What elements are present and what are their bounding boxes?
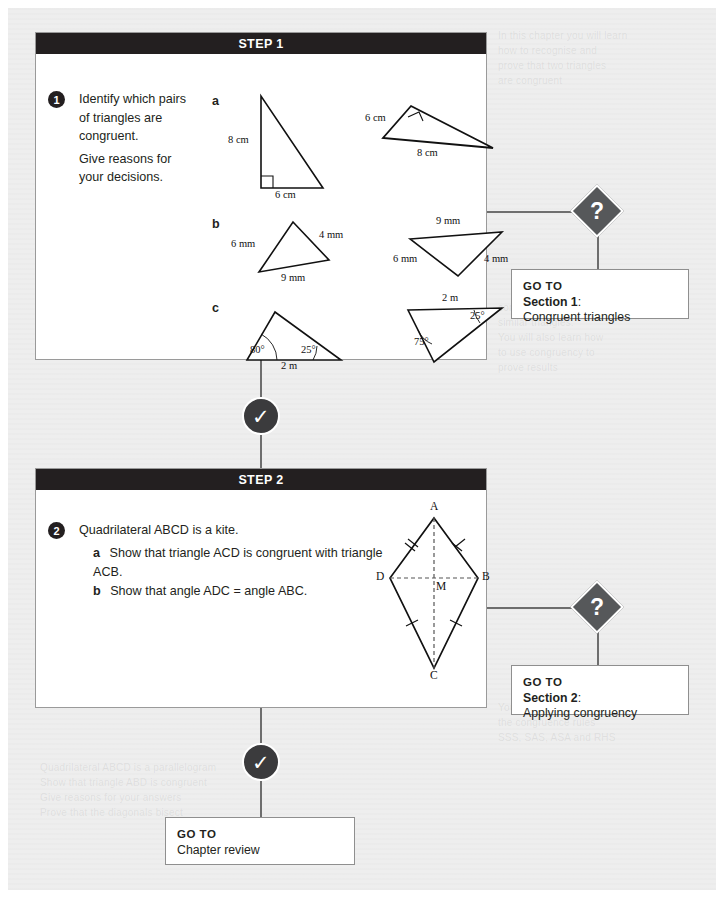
question-number-2: 2	[48, 522, 65, 539]
step-2-body: 2 Quadrilateral ABCD is a kite. a Show t…	[36, 490, 486, 707]
goto-box-section-2[interactable]: GO TO Section 2: Applying congruency	[511, 665, 689, 715]
goto-2-section: Section 2:	[523, 691, 677, 705]
figure-b-right-label-1: 9 mm	[436, 215, 460, 226]
figure-b-left-label-2: 4 mm	[319, 229, 343, 240]
goto-2-section-name: Section 2	[523, 691, 578, 705]
question-mark-icon-1: ?	[576, 190, 618, 232]
figure-a-left: 8 cm 6 cm	[231, 88, 351, 203]
sub-a-text: Show that triangle ACD is congruent with…	[93, 546, 383, 579]
check-icon-2: ✓	[242, 743, 280, 781]
goto-2-description: Applying congruency	[523, 706, 677, 720]
kite-vertex-D: D	[376, 570, 384, 582]
figure-a-right: 6 cm 8 cm	[361, 90, 511, 180]
part-letter-c: c	[212, 301, 219, 315]
ghost-text-top: In this chapter you will learn how to re…	[498, 28, 716, 88]
question-mark-icon-2: ?	[576, 586, 618, 628]
goto-1-section: Section 1:	[523, 295, 677, 309]
sub-b-text: Show that angle ADC = angle ABC.	[110, 584, 307, 598]
prompt-2-line-1: Quadrilateral ABCD is a kite.	[79, 521, 379, 540]
figure-a-right-label-1: 6 cm	[365, 112, 386, 123]
figure-b-right-label-3: 4 mm	[484, 253, 508, 264]
step-1-body: 1 Identify which pairs of triangles are …	[36, 54, 486, 359]
figure-kite-ABCD: A B C D M	[366, 500, 496, 690]
question-2-sub-b: b Show that angle ADC = angle ABC.	[93, 582, 383, 601]
prompt-line-1: Identify which pairs	[79, 90, 209, 109]
connector-step2-to-marker2	[487, 607, 578, 609]
connector-step1-to-marker1	[487, 211, 578, 213]
prompt-line-3: congruent.	[79, 127, 209, 146]
step-2-header: STEP 2	[36, 469, 486, 490]
kite-vertex-M: M	[436, 580, 446, 592]
figure-a-left-label-2: 6 cm	[275, 189, 296, 200]
goto-1-head: GO TO	[523, 280, 677, 292]
connector-check-to-step2	[260, 435, 262, 468]
figure-a-left-label-1: 8 cm	[228, 134, 249, 145]
prompt-line-2: of triangles are	[79, 109, 209, 128]
figure-b-left-label-3: 9 mm	[281, 272, 305, 283]
goto-1-colon: :	[578, 295, 581, 309]
question-2-sub-a: a Show that triangle ACD is congruent wi…	[93, 544, 383, 581]
kite-vertex-B: B	[482, 570, 490, 582]
prompt-line-5: your decisions.	[79, 168, 209, 187]
step-2-panel: STEP 2 2 Quadrilateral ABCD is a kite. a…	[35, 468, 487, 708]
question-2-prompt: Quadrilateral ABCD is a kite.	[79, 521, 379, 540]
sub-a-letter: a	[93, 546, 100, 560]
goto-box-section-1[interactable]: GO TO Section 1: Congruent triangles	[511, 269, 689, 319]
connector-step2-to-check2	[260, 707, 262, 743]
figure-b-right: 9 mm 6 mm 4 mm	[396, 214, 526, 286]
goto-2-colon: :	[578, 691, 581, 705]
goto-1-section-name: Section 1	[523, 295, 578, 309]
step-1-panel: STEP 1 1 Identify which pairs of triangl…	[35, 32, 487, 360]
question-number-1: 1	[48, 91, 65, 108]
kite-vertex-A: A	[430, 500, 438, 512]
goto-1-description: Congruent triangles	[523, 310, 677, 324]
figure-c-right-label-3: 75°	[414, 336, 429, 347]
goto-box-chapter-review[interactable]: GO TO Chapter review	[165, 817, 355, 865]
figure-c-left-label-1: 80°	[250, 344, 265, 355]
prompt-line-4: Give reasons for	[79, 150, 209, 169]
part-letter-b: b	[212, 217, 220, 231]
figure-c-left-label-2: 25°	[301, 344, 316, 355]
step-1-header: STEP 1	[36, 33, 486, 54]
sub-b-letter: b	[93, 584, 101, 598]
goto-3-description: Chapter review	[177, 843, 343, 857]
figure-c-right-label-1: 2 m	[442, 292, 458, 303]
figure-c-left-label-3: 2 m	[281, 360, 297, 371]
figure-a-right-label-2: 8 cm	[417, 147, 438, 158]
figure-b-left-label-1: 6 mm	[231, 238, 255, 249]
figure-b-right-label-2: 6 mm	[393, 253, 417, 264]
check-icon-1: ✓	[242, 397, 280, 435]
connector-check2-to-goto3	[260, 781, 262, 817]
figure-b-left: 6 mm 4 mm 9 mm	[231, 214, 361, 286]
figure-c-right: 2 m 25° 75°	[396, 292, 526, 378]
figure-c-right-label-2: 25°	[470, 310, 485, 321]
kite-vertex-C: C	[430, 669, 438, 681]
goto-2-head: GO TO	[523, 676, 677, 688]
question-1-prompt: Identify which pairs of triangles are co…	[79, 90, 209, 187]
goto-3-head: GO TO	[177, 828, 343, 840]
part-letter-a: a	[212, 94, 219, 108]
figure-c-left: 80° 25° 2 m	[231, 298, 371, 376]
